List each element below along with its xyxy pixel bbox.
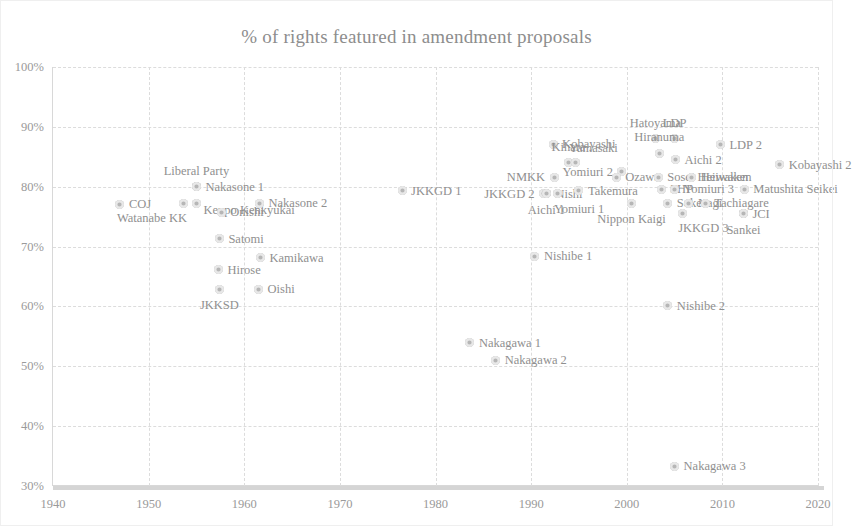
data-point-label: Yomiuri 3	[684, 183, 734, 196]
data-point-marker[interactable]	[671, 155, 680, 164]
data-point-label: Aichi 2	[685, 154, 722, 167]
gridline-vertical	[722, 67, 723, 486]
data-point-marker[interactable]	[215, 234, 224, 243]
data-point-label: Onishi	[230, 206, 263, 219]
data-point-marker[interactable]	[192, 199, 201, 208]
data-point-marker[interactable]	[670, 462, 679, 471]
data-point-label: Yomiuri 2	[562, 166, 612, 179]
data-point-label: JKKGD 3	[678, 222, 728, 235]
data-point-marker[interactable]	[663, 199, 672, 208]
y-axis-tick-label: 80%	[21, 179, 53, 194]
gridline-vertical	[627, 67, 628, 486]
data-point-marker[interactable]	[612, 173, 621, 182]
data-point-label: Sankei	[726, 223, 760, 236]
data-point-label: COJ	[129, 198, 151, 211]
data-point-label: Matushita Seikei	[753, 183, 837, 196]
data-point-marker[interactable]	[256, 253, 265, 262]
data-point-marker[interactable]	[491, 356, 500, 365]
data-point-label: JKKGD 2	[484, 188, 534, 201]
data-point-marker[interactable]	[550, 173, 559, 182]
data-point-label: Nakagawa 2	[505, 354, 567, 367]
data-point-label: Liberal Party	[164, 164, 230, 177]
gridline-vertical	[149, 67, 150, 486]
plot-area: 30%40%50%60%70%80%90%100%194019501960197…	[52, 67, 818, 486]
data-point-label: JCI	[752, 207, 769, 220]
data-point-marker[interactable]	[192, 182, 201, 191]
x-axis-tick-label: 1940	[41, 486, 66, 512]
data-point-label: Hiranuma	[634, 131, 684, 144]
data-point-marker[interactable]	[663, 301, 672, 310]
data-point-marker[interactable]	[530, 252, 539, 261]
data-point-marker[interactable]	[655, 149, 664, 158]
data-point-marker[interactable]	[254, 285, 263, 294]
x-axis-tick-label: 2000	[614, 486, 639, 512]
x-axis-tick-label: 1990	[519, 486, 544, 512]
data-point-marker[interactable]	[398, 186, 407, 195]
data-point-marker[interactable]	[465, 338, 474, 347]
data-point-label: LDP 2	[729, 139, 762, 152]
data-point-label: Nakasone 2	[269, 197, 328, 210]
data-point-label: Kobayashi 2	[789, 158, 852, 171]
gridline-vertical	[818, 67, 819, 486]
x-axis-tick-label: 1960	[232, 486, 257, 512]
gridline-vertical	[531, 67, 532, 486]
y-axis-tick-label: 70%	[21, 239, 53, 254]
gridline-vertical	[340, 67, 341, 486]
data-point-marker[interactable]	[775, 160, 784, 169]
data-point-marker[interactable]	[740, 185, 749, 194]
data-point-label: Hirose	[227, 264, 260, 277]
data-point-marker[interactable]	[214, 265, 223, 274]
gridline-vertical	[436, 67, 437, 486]
x-axis-tick-label: 1950	[136, 486, 161, 512]
data-point-marker[interactable]	[657, 185, 666, 194]
x-axis-tick-label: 2020	[806, 486, 831, 512]
data-point-label: Satomi	[228, 233, 263, 246]
chart-title: % of rights featured in amendment propos…	[0, 26, 833, 48]
data-point-marker[interactable]	[701, 199, 710, 208]
data-point-marker[interactable]	[654, 173, 663, 182]
y-axis-tick-label: 40%	[21, 419, 53, 434]
data-point-label: Nakasone 1	[205, 180, 264, 193]
data-point-label: Nippon Kaigi	[597, 213, 665, 226]
data-point-label: JKKSD	[200, 299, 239, 312]
data-point-label: Nakagawa 3	[684, 460, 746, 473]
data-point-label: NMKK	[507, 171, 545, 184]
data-point-label: Takemura	[588, 185, 638, 198]
x-axis-tick-label: 1980	[423, 486, 448, 512]
y-axis-tick-label: 60%	[21, 299, 53, 314]
data-point-marker[interactable]	[716, 140, 725, 149]
data-point-marker[interactable]	[115, 200, 124, 209]
data-point-label: Nakagawa 1	[479, 337, 541, 350]
y-axis-tick-label: 90%	[21, 119, 53, 134]
y-axis-tick-label: 50%	[21, 359, 53, 374]
x-axis-tick-label: 1970	[327, 486, 352, 512]
data-point-label: Oishi	[268, 283, 295, 296]
data-point-label: Nishibe 2	[677, 300, 725, 313]
y-axis-tick-label: 100%	[15, 60, 53, 75]
data-point-marker[interactable]	[739, 209, 748, 218]
data-point-marker[interactable]	[687, 173, 696, 182]
data-point-marker[interactable]	[542, 189, 551, 198]
data-point-marker[interactable]	[179, 199, 188, 208]
data-point-label: Yamasaki	[569, 142, 618, 155]
data-point-marker[interactable]	[670, 185, 679, 194]
data-point-marker[interactable]	[678, 209, 687, 218]
x-axis-tick-label: 2010	[710, 486, 735, 512]
data-point-marker[interactable]	[215, 285, 224, 294]
data-point-marker[interactable]	[217, 208, 226, 217]
data-point-label: Watanabe KK	[117, 212, 187, 225]
data-point-label: LDP	[663, 117, 687, 130]
data-point-marker[interactable]	[627, 199, 636, 208]
data-point-label: JKKGD 1	[411, 185, 461, 198]
data-point-label: Kamikawa	[270, 252, 324, 265]
data-point-label: Nishibe 1	[544, 250, 592, 263]
